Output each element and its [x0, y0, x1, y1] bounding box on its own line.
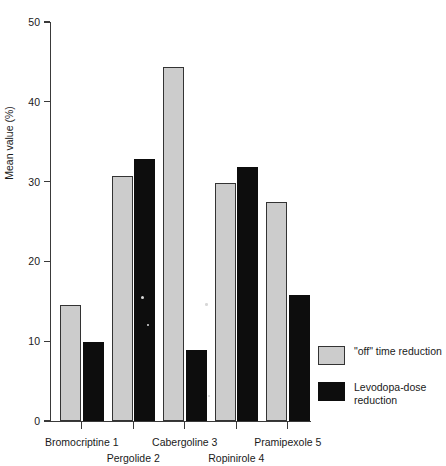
x-axis-tick-mark [133, 422, 134, 429]
x-axis-tick-label: Cabergoline 3 [152, 436, 217, 448]
bar [266, 202, 287, 421]
legend-label-off-time-reduction: "off" time reduction [354, 345, 442, 358]
x-axis-tick-mark [81, 422, 82, 429]
bar [134, 159, 155, 421]
x-axis-line [50, 421, 311, 422]
bar [289, 295, 310, 421]
bar [163, 67, 184, 421]
legend-swatch-levodopa-dose-reduction [318, 382, 345, 401]
bar [60, 305, 81, 421]
x-axis-tick-label: Pergolide 2 [107, 452, 160, 464]
bar-chart: Mean value (%) 01020304050 Bromocriptine… [0, 0, 446, 466]
legend-item: Levodopa-dose reduction [318, 381, 446, 406]
bar [112, 176, 133, 421]
scan-speckle-artifact [205, 303, 208, 306]
x-axis-tick-label: Pramipexole 5 [254, 436, 321, 448]
scan-speckle-artifact [208, 395, 210, 397]
x-axis-tick-label: Ropinirole 4 [208, 452, 264, 464]
x-axis-tick-mark [184, 422, 185, 429]
x-axis-tick-mark [236, 422, 237, 429]
legend-swatch-off-time-reduction [318, 346, 345, 365]
bar [215, 183, 236, 421]
legend-item: "off" time reduction [318, 345, 446, 365]
x-axis-tick-mark [287, 422, 288, 429]
legend: "off" time reduction Levodopa-dose reduc… [318, 345, 446, 422]
bar [237, 167, 258, 421]
scan-speckle-artifact [141, 296, 144, 299]
x-axis-tick-label: Bromocriptine 1 [45, 436, 119, 448]
legend-label-levodopa-dose-reduction: Levodopa-dose reduction [354, 381, 446, 406]
bar [186, 350, 207, 421]
bar [83, 342, 104, 421]
